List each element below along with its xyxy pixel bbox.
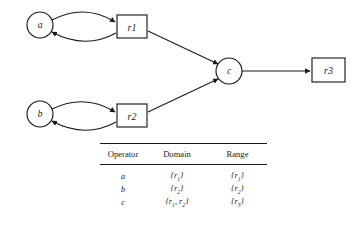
edge-r1-to-a xyxy=(52,32,116,41)
table-head: Operator Domain Range xyxy=(100,144,267,164)
cell-domain: {r2} xyxy=(146,183,208,196)
cell-range: {r3} xyxy=(208,196,267,209)
node-a-label: a xyxy=(38,20,43,30)
edge-r2-to-c xyxy=(148,79,218,112)
cell-domain: {r1, r2} xyxy=(146,196,208,209)
column-header-operator: Operator xyxy=(100,144,146,164)
table-header-row: Operator Domain Range xyxy=(100,144,267,164)
edge-r2-to-b xyxy=(52,121,116,130)
range-close: } xyxy=(241,197,244,206)
cell-operator: c xyxy=(100,196,146,209)
operator-table-wrapper: Operator Domain Range a {r1} {r1} b {r2}… xyxy=(100,143,267,209)
cell-operator: b xyxy=(100,183,146,196)
operator-table: Operator Domain Range xyxy=(100,144,267,164)
column-header-range: Range xyxy=(208,144,267,164)
node-r3-label: r3 xyxy=(324,65,333,76)
figure-page: a b c r1 r2 r3 Operator Domain Range xyxy=(0,0,359,232)
node-r1-label: r1 xyxy=(128,22,137,33)
edge-a-to-r1 xyxy=(52,12,115,22)
table-body: a {r1} {r1} b {r2} {r2} c {r1, r2} {r3} xyxy=(100,165,267,209)
table-row: a {r1} {r1} xyxy=(100,165,267,183)
node-b-label: b xyxy=(38,109,43,119)
domain-close: } xyxy=(180,184,183,193)
operator-table-body: a {r1} {r1} b {r2} {r2} c {r1, r2} {r3} xyxy=(100,165,267,209)
operator-diagram: a b c r1 r2 r3 xyxy=(0,0,359,140)
table-row: c {r1, r2} {r3} xyxy=(100,196,267,209)
domain-close: } xyxy=(180,171,183,180)
table-row: b {r2} {r2} xyxy=(100,183,267,196)
cell-domain: {r1} xyxy=(146,165,208,183)
range-close: } xyxy=(241,184,244,193)
cell-operator: a xyxy=(100,165,146,183)
domain-close: } xyxy=(185,197,188,206)
cell-range: {r2} xyxy=(208,183,267,196)
edge-r1-to-c xyxy=(148,31,218,64)
cell-range: {r1} xyxy=(208,165,267,183)
node-r2-label: r2 xyxy=(128,111,137,122)
range-close: } xyxy=(241,171,244,180)
column-header-domain: Domain xyxy=(146,144,208,164)
edge-b-to-r2 xyxy=(52,102,115,112)
